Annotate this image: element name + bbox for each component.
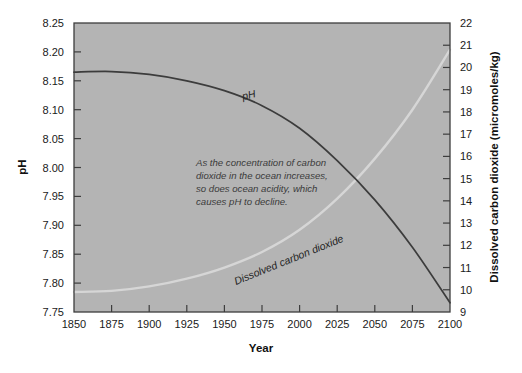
x-tick-label: 1950: [212, 318, 236, 330]
y-axis-right-title: Dissolved carbon dioxide (micromoles/kg): [488, 51, 500, 283]
y-tick-label-left: 8.15: [43, 75, 64, 87]
y-tick-label-left: 7.85: [43, 248, 64, 260]
y-tick-label-right: 18: [460, 106, 472, 118]
y-tick-label-right: 15: [460, 173, 472, 185]
y-tick-label-left: 8.05: [43, 133, 64, 145]
y-tick-label-left: 8.25: [43, 17, 64, 29]
y-tick-label-right: 11: [460, 262, 471, 274]
annotation-line-3: so does ocean acidity, which: [196, 183, 317, 194]
x-tick-label: 2075: [400, 318, 424, 330]
x-axis-title: Year: [249, 342, 274, 354]
x-tick-label: 1925: [175, 318, 199, 330]
x-tick-label: 2000: [287, 318, 311, 330]
annotation-line-1: As the concentration of carbon: [195, 157, 326, 168]
y-tick-label-right: 10: [460, 284, 472, 296]
y-tick-label-left: 7.90: [43, 219, 64, 231]
y-tick-label-left: 7.75: [43, 306, 64, 318]
y-tick-label-left: 7.95: [43, 190, 64, 202]
annotation-line-2: dioxide in the ocean increases,: [196, 170, 328, 181]
x-tick-label: 1900: [137, 318, 161, 330]
y-tick-label-left: 7.80: [43, 277, 64, 289]
y-tick-label-right: 19: [460, 84, 472, 96]
x-axis-tick-labels: 1850187519001925195019752000202520502075…: [62, 318, 462, 330]
y-tick-label-right: 22: [460, 17, 472, 29]
chart-figure: 7.757.807.857.907.958.008.058.108.158.20…: [0, 0, 522, 373]
x-tick-label: 1975: [250, 318, 274, 330]
y-tick-label-left: 8.00: [43, 162, 64, 174]
y-tick-label-left: 8.20: [43, 46, 64, 58]
y-tick-label-right: 21: [460, 39, 472, 51]
y-tick-label-right: 20: [460, 61, 472, 73]
y-tick-label-right: 14: [460, 195, 472, 207]
x-tick-label: 2100: [438, 318, 462, 330]
chart-svg: 7.757.807.857.907.958.008.058.108.158.20…: [0, 0, 522, 373]
annotation-line-4: causes pH to decline.: [196, 196, 288, 207]
y-tick-label-left: 8.10: [43, 104, 64, 116]
x-tick-label: 1875: [99, 318, 123, 330]
y-tick-label-right: 16: [460, 150, 472, 162]
y-tick-label-right: 9: [460, 306, 466, 318]
x-tick-label: 1850: [62, 318, 86, 330]
y-tick-label-right: 17: [460, 128, 472, 140]
y-axis-left-title: pH: [16, 159, 28, 174]
y-tick-label-right: 12: [460, 239, 472, 251]
x-tick-label: 2025: [325, 318, 349, 330]
y-tick-label-right: 13: [460, 217, 472, 229]
x-tick-label: 2050: [363, 318, 387, 330]
